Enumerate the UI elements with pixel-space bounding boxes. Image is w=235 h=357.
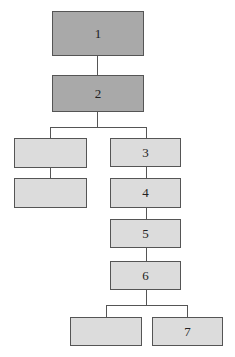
- node-1: 1: [52, 11, 144, 56]
- connector-5-6: [146, 248, 147, 261]
- connector-1-2: [97, 56, 98, 75]
- node-6-label: 6: [142, 268, 149, 284]
- node-2-label: 2: [95, 86, 102, 102]
- connector-6-down: [146, 290, 147, 305]
- connector-left-a-b: [50, 168, 51, 178]
- node-1-label: 1: [95, 26, 102, 42]
- node-4-label: 4: [142, 185, 149, 201]
- connector-branch-bottom: [106, 305, 188, 306]
- node-2: 2: [52, 75, 144, 112]
- node-4: 4: [110, 178, 181, 208]
- connector-to-bottom-left: [106, 305, 107, 317]
- node-left-a: [14, 138, 87, 168]
- connector-to-3: [146, 127, 147, 138]
- node-5-label: 5: [142, 226, 149, 242]
- connector-to-left-a: [50, 127, 51, 138]
- node-bottom-left: [70, 317, 142, 346]
- connector-2-down: [97, 112, 98, 127]
- connector-branch-top: [50, 127, 147, 128]
- node-3: 3: [110, 138, 181, 167]
- node-6: 6: [110, 261, 181, 290]
- node-left-b: [14, 178, 87, 208]
- connector-to-7: [187, 305, 188, 317]
- node-3-label: 3: [142, 145, 149, 161]
- connector-4-5: [146, 208, 147, 219]
- connector-3-4: [146, 167, 147, 178]
- node-7: 7: [152, 317, 223, 346]
- node-7-label: 7: [184, 324, 191, 340]
- node-5: 5: [110, 219, 181, 248]
